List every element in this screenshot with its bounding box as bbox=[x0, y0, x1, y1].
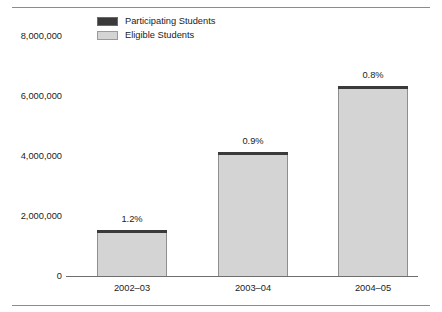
bar-group[interactable]: 0.9%2003–04 bbox=[218, 0, 288, 312]
bar-value-label: 0.8% bbox=[338, 70, 408, 80]
y-axis-tick-label: 8,000,000 bbox=[0, 31, 62, 41]
x-axis-tick-label: 2002–03 bbox=[97, 283, 167, 293]
bar-segment-eligible-students[interactable] bbox=[97, 233, 167, 276]
x-axis-tick-label: 2004–05 bbox=[338, 283, 408, 293]
y-axis-tick-label: 2,000,000 bbox=[0, 211, 62, 221]
y-axis-tick-mark bbox=[66, 276, 71, 277]
bar-group[interactable]: 1.2%2002–03 bbox=[97, 0, 167, 312]
bar-segment-eligible-students[interactable] bbox=[218, 155, 288, 276]
chart-figure: Participating Students Eligible Students… bbox=[0, 0, 442, 312]
y-axis-tick-label: 4,000,000 bbox=[0, 151, 62, 161]
bar-stack[interactable] bbox=[218, 152, 288, 276]
bar-stack[interactable] bbox=[97, 230, 167, 276]
bar-stack[interactable] bbox=[338, 86, 408, 276]
y-axis-tick-label: 0 bbox=[0, 271, 62, 281]
bar-value-label: 1.2% bbox=[97, 214, 167, 224]
bar-value-label: 0.9% bbox=[218, 136, 288, 146]
bar-group[interactable]: 0.8%2004–05 bbox=[338, 0, 408, 312]
y-axis-tick-label: 6,000,000 bbox=[0, 91, 62, 101]
x-axis-tick-label: 2003–04 bbox=[218, 283, 288, 293]
bar-segment-eligible-students[interactable] bbox=[338, 89, 408, 276]
